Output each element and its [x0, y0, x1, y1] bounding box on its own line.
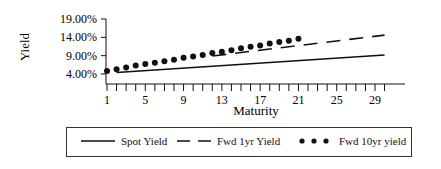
- y-tick-label: 19.00%: [60, 12, 97, 26]
- legend-label: Fwd 10yr yield: [339, 135, 406, 147]
- dots-swatch-icon: [299, 137, 333, 145]
- solid-line-swatch-icon: [81, 138, 115, 144]
- dashed-line-swatch-icon: [177, 138, 211, 144]
- data-point: [286, 38, 292, 44]
- yield-curve-chart: 19.00%14.00%9.00%4.00%1591317212529 Yiel…: [0, 0, 441, 125]
- legend-label: Spot Yield: [121, 135, 167, 147]
- x-tick-label: 1: [104, 93, 110, 107]
- data-point: [257, 42, 263, 48]
- x-tick-label: 13: [216, 93, 228, 107]
- data-point: [133, 63, 139, 69]
- legend-item-fwd-1yr: Fwd 1yr Yield: [177, 135, 280, 147]
- data-point: [267, 41, 273, 47]
- data-point: [152, 60, 158, 66]
- data-point: [104, 68, 110, 74]
- x-tick-label: 5: [142, 93, 148, 107]
- data-point: [238, 45, 244, 51]
- data-point: [123, 64, 129, 70]
- y-axis-label: Yield: [17, 32, 32, 61]
- y-tick-label: 4.00%: [66, 67, 97, 81]
- data-point: [161, 58, 167, 64]
- legend-label: Fwd 1yr Yield: [217, 135, 280, 147]
- legend-item-spot-yield: Spot Yield: [81, 135, 167, 147]
- data-point: [295, 36, 301, 42]
- data-point: [171, 57, 177, 63]
- series-layer: [104, 35, 385, 74]
- y-tick-label: 9.00%: [66, 49, 97, 63]
- legend: Spot Yield Fwd 1yr Yield Fwd 10yr yield: [66, 127, 412, 157]
- x-tick-label: 21: [292, 93, 304, 107]
- data-point: [276, 39, 282, 45]
- data-point: [219, 49, 225, 55]
- data-point: [200, 52, 206, 58]
- data-point: [181, 55, 187, 61]
- x-tick-label: 25: [331, 93, 343, 107]
- x-tick-label: 9: [181, 93, 187, 107]
- y-tick-label: 14.00%: [60, 30, 97, 44]
- data-point: [248, 44, 254, 50]
- data-point: [142, 61, 148, 67]
- data-point: [190, 53, 196, 59]
- data-point: [228, 47, 234, 53]
- legend-item-fwd-10yr: Fwd 10yr yield: [299, 135, 406, 147]
- data-point: [209, 50, 215, 56]
- data-point: [114, 66, 120, 72]
- x-axis-label: Maturity: [233, 103, 279, 118]
- axes: 19.00%14.00%9.00%4.00%1591317212529: [60, 12, 405, 107]
- x-tick-label: 29: [369, 93, 381, 107]
